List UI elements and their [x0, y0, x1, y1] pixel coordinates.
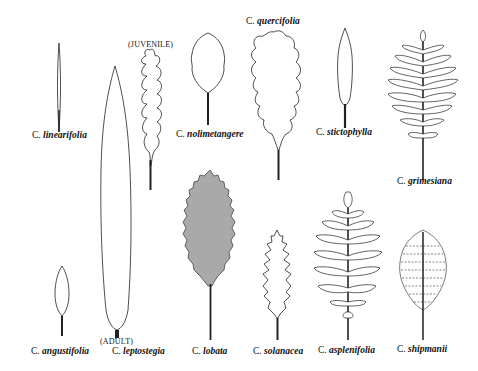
leaf-leptostegia-adult — [101, 66, 131, 338]
label-lobata: C. lobata — [192, 346, 227, 356]
leaf-lobata — [183, 170, 235, 340]
adult-note: (ADULT) — [100, 337, 133, 346]
leaf-angustifolia — [55, 266, 69, 336]
leaf-stictophylla — [338, 28, 353, 128]
leaf-grimesiana — [388, 30, 458, 180]
label-angustifolia: C. angustifolia — [31, 346, 89, 356]
label-leptostegia: C. leptostegia — [112, 346, 165, 356]
label-shipmanii: C. shipmanii — [397, 344, 447, 354]
label-stictophylla: C. stictophylla — [316, 127, 372, 137]
leaf-nolimetangere — [191, 33, 224, 125]
label-nolimetangere: C. nolimetangere — [176, 129, 244, 139]
leaf-shipmanii — [400, 230, 447, 340]
label-quercifolia: C. quercifolia — [246, 16, 300, 26]
leaf-solanacea — [263, 230, 291, 340]
juvenile-note: (JUVENILE) — [128, 40, 173, 49]
label-solanacea: C. solanacea — [253, 346, 303, 356]
leaf-quercifolia — [252, 31, 301, 180]
label-linearifolia: C. linearifolia — [32, 130, 87, 140]
leaf-asplenifolia — [314, 192, 382, 340]
label-grimesiana: C. grimesiana — [397, 176, 452, 186]
leaf-linearifolia — [58, 43, 61, 132]
label-asplenifolia: C. asplenifolia — [318, 345, 375, 355]
leaf-leptostegia-juvenile — [142, 49, 162, 190]
